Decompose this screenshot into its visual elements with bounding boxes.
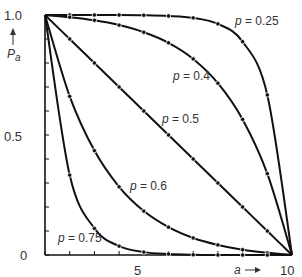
y-tick-05: 0.5 (4, 129, 22, 144)
data-point (265, 93, 269, 97)
x-tick-10: 10 (280, 263, 294, 277)
data-point (166, 41, 170, 45)
data-point (216, 243, 220, 247)
data-point (117, 85, 121, 89)
data-point (92, 226, 96, 230)
data-point (92, 13, 96, 17)
data-point (191, 16, 195, 20)
data-point (142, 30, 146, 34)
data-point (166, 14, 170, 18)
label-p06: p = 0.6 (129, 179, 167, 193)
data-point (117, 23, 121, 27)
data-point (92, 61, 96, 65)
data-point (216, 81, 220, 85)
x-axis-label: a (234, 263, 261, 277)
data-point (191, 253, 195, 257)
y-axis-label: P a (7, 28, 21, 63)
data-point (92, 148, 96, 152)
data-points (68, 13, 270, 257)
data-point (166, 133, 170, 137)
label-p05: p = 0.5 (161, 112, 199, 126)
data-point (240, 117, 244, 121)
label-p04: p = 0.4 (172, 69, 210, 83)
data-point (191, 236, 195, 240)
data-point (240, 39, 244, 43)
data-point (68, 94, 72, 98)
data-point (191, 157, 195, 161)
x-tick-5: 5 (134, 263, 141, 277)
label-p025: p = 0.25 (234, 14, 279, 28)
data-point (142, 250, 146, 254)
data-point (117, 185, 121, 189)
data-point (117, 13, 121, 17)
data-point (216, 181, 220, 185)
data-point (240, 205, 244, 209)
data-point (265, 171, 269, 175)
data-point (191, 57, 195, 61)
data-point (68, 173, 72, 177)
data-point (240, 253, 244, 257)
data-point (166, 225, 170, 229)
data-point (142, 209, 146, 213)
svg-text:a: a (234, 263, 241, 277)
data-point (68, 37, 72, 41)
svg-text:a: a (15, 52, 21, 63)
chart: 1.0 0.5 0 5 10 P a a p = 0.25 p = 0.4 p … (0, 0, 302, 277)
data-point (117, 244, 121, 248)
y-tick-1: 1.0 (4, 8, 22, 23)
data-point (216, 253, 220, 257)
data-point (265, 229, 269, 233)
data-point (166, 252, 170, 256)
svg-text:P: P (7, 47, 15, 61)
data-point (142, 109, 146, 113)
data-point (240, 248, 244, 252)
data-point (92, 18, 96, 22)
y-tick-0: 0 (20, 248, 27, 263)
label-p075: p = 0.75 (57, 231, 102, 245)
data-point (68, 15, 72, 19)
data-point (216, 22, 220, 26)
data-point (142, 13, 146, 17)
data-point (265, 253, 269, 257)
